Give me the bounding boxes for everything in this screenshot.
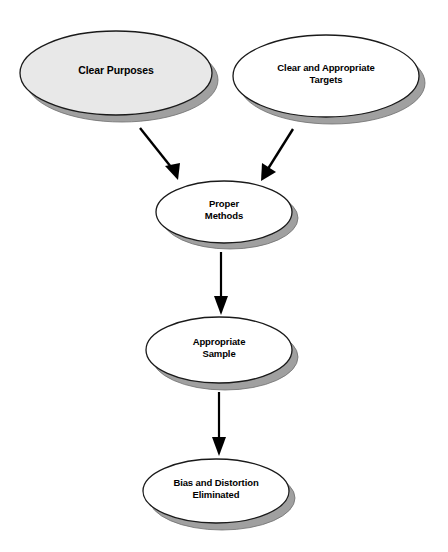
arrow-targets-to-methods	[261, 129, 293, 181]
arrow-purposes-to-methods	[140, 128, 180, 180]
node-ellipse-proper-methods[interactable]	[156, 181, 292, 243]
flow-arrows	[140, 128, 293, 456]
arrow-methods-to-sample	[214, 252, 228, 315]
node-ellipse-appropriate-sample[interactable]	[146, 317, 292, 383]
node-ellipse-bias-and-distortion-eliminated[interactable]	[143, 459, 289, 523]
flowchart-svg	[0, 0, 448, 552]
node-ellipse-clear-purposes[interactable]	[20, 31, 212, 115]
diagram-canvas: Clear Purposes Clear and Appropriate Tar…	[0, 0, 448, 552]
arrow-sample-to-bias	[212, 392, 226, 456]
node-ellipse-clear-and-appropriate-targets[interactable]	[233, 35, 419, 117]
